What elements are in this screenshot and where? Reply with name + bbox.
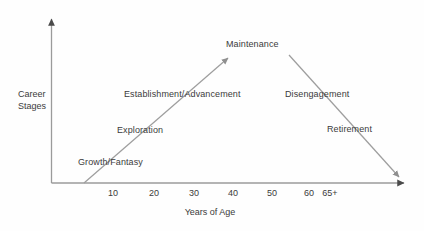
stage-label-exploration: Exploration — [117, 125, 163, 136]
stage-label-maintenance: Maintenance — [226, 39, 279, 50]
stage-label-establishment-advancement: Establishment/Advancement — [124, 89, 241, 100]
stage-label-retirement: Retirement — [327, 124, 372, 135]
stage-label-growth-fantasy: Growth/Fantasy — [78, 157, 143, 168]
diagram-canvas — [0, 0, 424, 231]
x-tick-65plus: 65+ — [322, 188, 337, 198]
x-tick-10: 10 — [108, 188, 118, 198]
x-tick-20: 20 — [149, 188, 159, 198]
y-axis-title-line1: Career — [18, 88, 46, 100]
x-tick-40: 40 — [228, 188, 238, 198]
x-axis-title: Years of Age — [185, 207, 236, 217]
stage-label-disengagement: Disengagement — [285, 89, 349, 100]
y-axis-title: Career Stages — [18, 88, 46, 112]
career-stages-diagram: Career Stages 10 20 30 40 50 60 65+ Year… — [0, 0, 424, 231]
descending-trajectory-arrow — [289, 55, 399, 177]
x-tick-60: 60 — [304, 188, 314, 198]
x-tick-30: 30 — [189, 188, 199, 198]
y-axis-title-line2: Stages — [18, 100, 46, 112]
x-tick-50: 50 — [267, 188, 277, 198]
